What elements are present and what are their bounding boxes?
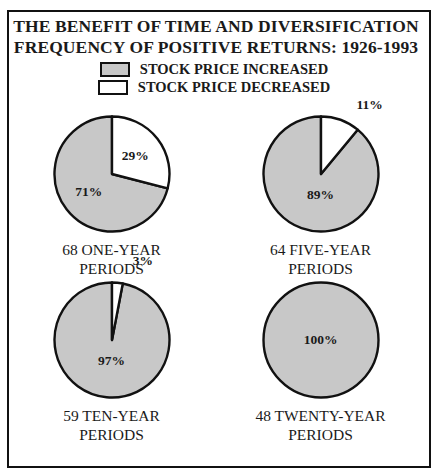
pie-svg xyxy=(52,114,172,234)
slice-label-increased: 71% xyxy=(75,185,102,199)
chart-legend: STOCK PRICE INCREASED STOCK PRICE DECREA… xyxy=(0,61,428,95)
caption-line-2: PERIODS xyxy=(63,425,160,444)
pie-caption-ten-year: 59 TEN-YEAR PERIODS xyxy=(63,406,160,444)
caption-line-2: PERIODS xyxy=(270,259,371,278)
title-line-1: THE BENEFIT OF TIME AND DIVERSIFICATION xyxy=(7,16,425,37)
pie-svg xyxy=(261,114,381,234)
caption-line-1: 64 FIVE-YEAR xyxy=(270,240,371,259)
slice-label-increased: 100% xyxy=(304,333,338,347)
legend-label-decreased: STOCK PRICE DECREASED xyxy=(138,79,330,95)
caption-line-1: 48 TWENTY-YEAR xyxy=(255,406,385,425)
pie-chart-twenty-year: 100% xyxy=(246,278,396,402)
pie-row-top: 29%71% 68 ONE-YEAR PERIODS 11%89% 64 FIV… xyxy=(7,112,425,278)
pie-cell-one-year: 29%71% 68 ONE-YEAR PERIODS xyxy=(7,112,216,278)
chart-title: THE BENEFIT OF TIME AND DIVERSIFICATION … xyxy=(7,16,425,58)
legend-label-increased: STOCK PRICE INCREASED xyxy=(140,61,328,77)
pie-row-bottom: 3%97% 59 TEN-YEAR PERIODS 100% 48 TWENTY… xyxy=(7,278,425,444)
pie-cell-ten-year: 3%97% 59 TEN-YEAR PERIODS xyxy=(7,278,216,444)
slice-label-increased: 97% xyxy=(98,354,125,368)
decreased-swatch-icon xyxy=(98,80,128,95)
caption-line-1: 59 TEN-YEAR xyxy=(63,406,160,425)
pie-chart-grid: 29%71% 68 ONE-YEAR PERIODS 11%89% 64 FIV… xyxy=(7,112,425,444)
pie-caption-twenty-year: 48 TWENTY-YEAR PERIODS xyxy=(255,406,385,444)
title-line-2: FREQUENCY OF POSITIVE RETURNS: 1926-1993 xyxy=(7,37,425,58)
caption-line-2: PERIODS xyxy=(255,425,385,444)
slice-label-increased: 89% xyxy=(307,188,334,202)
pie-chart-one-year: 29%71% xyxy=(37,112,187,236)
pie-cell-twenty-year: 100% 48 TWENTY-YEAR PERIODS xyxy=(216,278,425,444)
slice-label-decreased: 3% xyxy=(133,254,153,268)
pie-svg xyxy=(52,280,172,400)
pie-chart-ten-year: 3%97% xyxy=(37,278,187,402)
pie-cell-five-year: 11%89% 64 FIVE-YEAR PERIODS xyxy=(216,112,425,278)
increased-swatch-icon xyxy=(100,62,130,77)
legend-item-increased: STOCK PRICE INCREASED xyxy=(100,61,328,77)
slice-label-decreased: 29% xyxy=(122,149,149,163)
legend-item-decreased: STOCK PRICE DECREASED xyxy=(98,79,330,95)
pie-caption-five-year: 64 FIVE-YEAR PERIODS xyxy=(270,240,371,278)
pie-chart-five-year: 11%89% xyxy=(246,112,396,236)
slice-label-decreased: 11% xyxy=(356,98,382,112)
